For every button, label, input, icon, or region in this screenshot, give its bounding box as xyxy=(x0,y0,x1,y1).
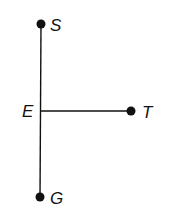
label-g: G xyxy=(50,189,63,208)
label-t: T xyxy=(142,103,154,122)
diagram-canvas: S E T G xyxy=(0,0,170,209)
point-g xyxy=(36,193,45,202)
point-t xyxy=(127,107,136,116)
segment-sg xyxy=(40,24,41,197)
label-e: E xyxy=(22,102,34,121)
label-s: S xyxy=(50,16,62,35)
point-s xyxy=(37,20,46,29)
